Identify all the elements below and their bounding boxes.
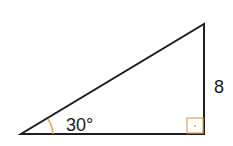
side-label: 8: [214, 77, 224, 97]
right-angle-dot-icon: [194, 125, 196, 127]
angle-label: 30°: [66, 115, 93, 135]
triangle-diagram: 30° 8: [0, 0, 233, 146]
triangle: [21, 24, 204, 134]
angle-arc-icon: [48, 119, 53, 134]
